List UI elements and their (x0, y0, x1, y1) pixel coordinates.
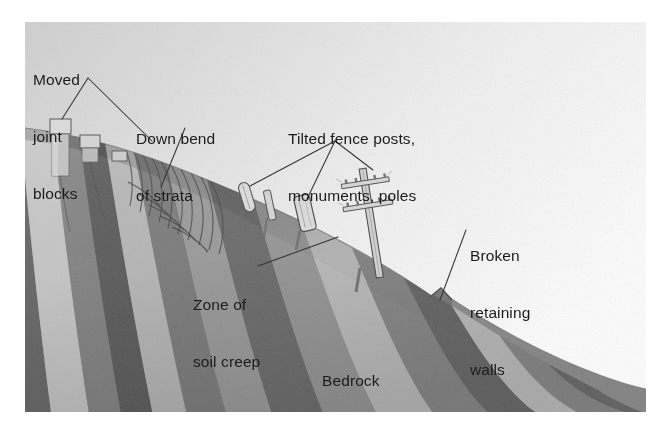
hillslope-illustration (0, 0, 667, 434)
soil-creep-figure: Moved joint blocks Down bend of strata T… (0, 0, 667, 434)
paper-grain (25, 22, 646, 412)
